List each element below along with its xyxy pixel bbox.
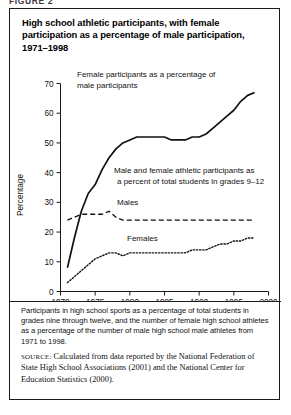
- chart-svg: 010203040506070 197019751980198519901995…: [10, 55, 281, 301]
- note-divider: [10, 301, 281, 302]
- female-pct-of-male-annotation-line2: male participants: [77, 81, 137, 90]
- y-tick-label: 0: [49, 288, 54, 297]
- y-axis-title: Percentage: [16, 174, 25, 216]
- chart-series-layer: [67, 92, 254, 282]
- chart-axes: [61, 84, 269, 292]
- y-axis-ticks: 010203040506070: [44, 80, 60, 297]
- chart-annotations: Female participants as a percentage of m…: [77, 70, 265, 243]
- figure-source: SOURCE: Calculated from data reported by…: [21, 351, 271, 385]
- source-label: SOURCE:: [21, 353, 52, 360]
- y-tick-label: 70: [44, 80, 54, 89]
- series-line-2: [67, 238, 254, 283]
- female-pct-of-male-annotation-line1: Female participants as a percentage of: [77, 70, 216, 79]
- figure-panel: High school athletic participants, with …: [9, 8, 280, 400]
- series-label-males: Males: [117, 198, 138, 207]
- total-students-annotation-line2: a percent of total students in grades 9–…: [117, 177, 265, 186]
- y-tick-label: 50: [44, 139, 54, 148]
- figure-number-label: FIGURE 2: [9, 0, 53, 5]
- figure-note: Participants in high school sports as a …: [21, 306, 269, 347]
- source-text: Calculated from data reported by the Nat…: [21, 352, 255, 384]
- page-title: High school athletic participants, with …: [22, 17, 266, 54]
- y-tick-label: 30: [44, 198, 54, 207]
- y-tick-label: 40: [44, 169, 54, 178]
- y-tick-label: 10: [44, 258, 54, 267]
- y-tick-label: 20: [44, 228, 54, 237]
- line-chart: 010203040506070 197019751980198519901995…: [10, 55, 281, 301]
- x-axis-ticks: 1970197519801985199019952000: [51, 292, 278, 302]
- series-label-females: Females: [127, 234, 158, 243]
- y-tick-label: 60: [44, 109, 54, 118]
- total-students-annotation-line1: Male and female athletic participants as: [114, 166, 255, 175]
- series-line-1: [67, 211, 254, 220]
